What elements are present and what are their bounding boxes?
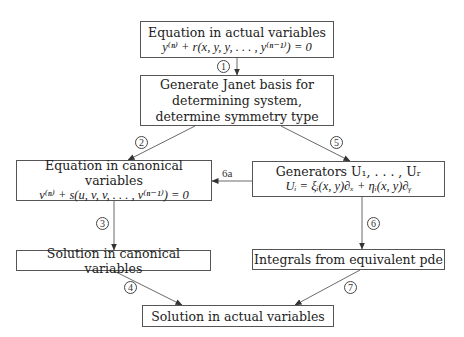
node-canonical-equation: Equation in canonical variables v⁽ⁿ⁾ + s…	[16, 160, 212, 201]
node-formula: Uᵢ = ξᵢ(x, y)∂ₓ + ηᵢ(x, y)∂ᵧ	[285, 179, 411, 194]
node-actual-equation: Equation in actual variables y⁽ⁿ⁾ + r(x,…	[140, 21, 334, 58]
edge-label-5: 5	[330, 136, 343, 149]
node-formula: v⁽ⁿ⁾ + s(u, v, v, . . . , v⁽ⁿ⁻¹⁾) = 0	[39, 188, 189, 203]
node-integrals: Integrals from equivalent pde	[252, 249, 445, 270]
edge-label-4: 4	[124, 281, 137, 294]
node-label: Solution in actual variables	[151, 309, 324, 324]
node-label: Integrals from equivalent pde	[254, 252, 443, 267]
flowchart: Equation in actual variables y⁽ⁿ⁾ + r(x,…	[0, 0, 464, 337]
edge-label-2: 2	[135, 136, 148, 149]
node-line-1: Generate Janet basis for	[160, 77, 314, 93]
edge-label-6: 6	[367, 217, 380, 230]
edge-label-1: 1	[217, 60, 230, 73]
node-canonical-solution: Solution in canonical variables	[16, 250, 211, 271]
node-title: Equation in actual variables	[148, 25, 326, 40]
node-label: Solution in canonical variables	[17, 246, 210, 276]
node-janet-basis: Generate Janet basis for determining sys…	[140, 75, 334, 126]
node-title: Equation in canonical variables	[17, 158, 211, 188]
node-title: Generators U₁, . . . , Uᵣ	[276, 164, 421, 179]
node-line-2: determining system,	[172, 93, 302, 109]
edge-label-3: 3	[96, 217, 109, 230]
edge-label-6a: 6a	[222, 167, 232, 180]
node-actual-solution: Solution in actual variables	[142, 305, 334, 327]
node-line-3: determine symmetry type	[155, 109, 318, 125]
edge-label-7: 7	[344, 281, 357, 294]
node-formula: y⁽ⁿ⁾ + r(x, y, y, . . . , y⁽ⁿ⁻¹⁾) = 0	[162, 40, 311, 55]
node-generators: Generators U₁, . . . , Uᵣ Uᵢ = ξᵢ(x, y)∂…	[252, 161, 445, 197]
